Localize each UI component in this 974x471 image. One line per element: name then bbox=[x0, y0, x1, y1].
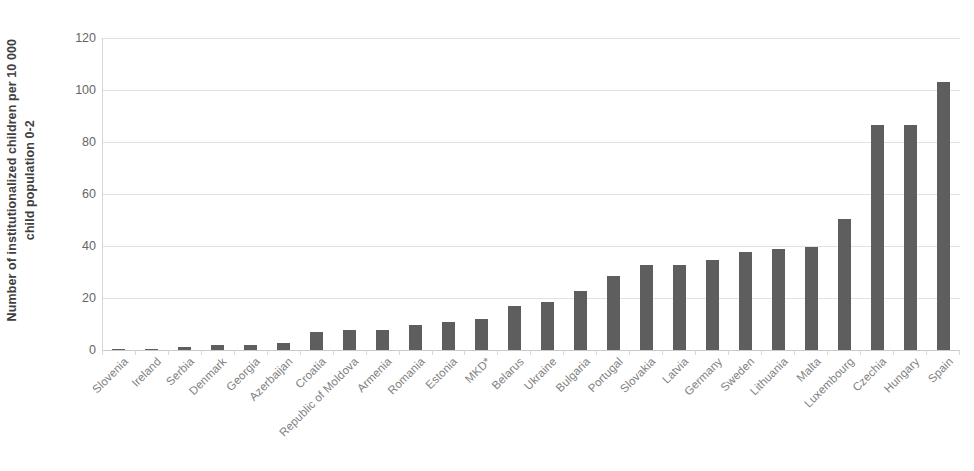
y-tick-label-80: 80 bbox=[56, 135, 96, 149]
bar-slot bbox=[399, 38, 432, 350]
bar-slot bbox=[201, 38, 234, 350]
y-tick-label-100: 100 bbox=[56, 83, 96, 97]
bar-germany[interactable] bbox=[706, 260, 719, 350]
bar-slot bbox=[663, 38, 696, 350]
bar-slot bbox=[168, 38, 201, 350]
bar-slot bbox=[861, 38, 894, 350]
x-label-slot: Romania bbox=[399, 356, 432, 471]
x-label-slot: Hungary bbox=[894, 356, 927, 471]
bar-slot bbox=[267, 38, 300, 350]
x-tick-mark bbox=[926, 350, 927, 355]
y-tick-label-40: 40 bbox=[56, 239, 96, 253]
x-tick-label-latvia: Latvia bbox=[660, 355, 691, 386]
bar-slot bbox=[927, 38, 960, 350]
bar-slot bbox=[432, 38, 465, 350]
y-axis-title-text: Number of institutionalized children per… bbox=[3, 39, 39, 322]
x-tick-mark bbox=[761, 350, 762, 355]
y-tick-label-60: 60 bbox=[56, 187, 96, 201]
bar-croatia[interactable] bbox=[310, 332, 323, 350]
x-label-slot: Czechia bbox=[861, 356, 894, 471]
bar-czechia[interactable] bbox=[871, 125, 884, 350]
x-tick-mark bbox=[662, 350, 663, 355]
bar-slot bbox=[465, 38, 498, 350]
x-tick-mark bbox=[695, 350, 696, 355]
x-tick-mark bbox=[333, 350, 334, 355]
y-axis-title-line-2: child population 0-2 bbox=[23, 120, 37, 240]
x-label-slot: Sweden bbox=[729, 356, 762, 471]
x-tick-label-mkd: MKD* bbox=[463, 355, 493, 385]
bar-hungary[interactable] bbox=[904, 125, 917, 350]
bar-lithuania[interactable] bbox=[772, 249, 785, 350]
x-label-slot: Serbia bbox=[168, 356, 201, 471]
x-label-slot: Germany bbox=[696, 356, 729, 471]
bar-estonia[interactable] bbox=[442, 322, 455, 350]
bar-republic-of-moldova[interactable] bbox=[343, 330, 356, 350]
x-label-slot: Denmark bbox=[201, 356, 234, 471]
x-tick-label-ireland: Ireland bbox=[129, 355, 163, 389]
x-label-slot: Malta bbox=[795, 356, 828, 471]
x-label-slot: Belarus bbox=[498, 356, 531, 471]
x-label-slot: Spain bbox=[927, 356, 960, 471]
bar-slot bbox=[597, 38, 630, 350]
x-tick-mark bbox=[168, 350, 169, 355]
x-label-slot: Bulgaria bbox=[564, 356, 597, 471]
x-tick-mark bbox=[959, 350, 960, 355]
bar-belarus[interactable] bbox=[508, 306, 521, 350]
x-label-slot: Republic of Moldova bbox=[333, 356, 366, 471]
bar-slot bbox=[630, 38, 663, 350]
x-label-slot: Georgia bbox=[234, 356, 267, 471]
x-axis-ticks bbox=[102, 350, 960, 355]
x-tick-mark bbox=[794, 350, 795, 355]
bar-slot bbox=[795, 38, 828, 350]
x-label-slot: Armenia bbox=[366, 356, 399, 471]
bar-slot bbox=[531, 38, 564, 350]
x-tick-mark bbox=[201, 350, 202, 355]
bar-armenia[interactable] bbox=[376, 330, 389, 350]
x-axis-tick-labels: SloveniaIrelandSerbiaDenmarkGeorgiaAzerb… bbox=[102, 356, 960, 471]
x-tick-mark bbox=[432, 350, 433, 355]
x-label-slot: Slovenia bbox=[102, 356, 135, 471]
bar-slot bbox=[894, 38, 927, 350]
x-label-slot: Ireland bbox=[135, 356, 168, 471]
y-axis-title: Number of institutionalized children per… bbox=[0, 0, 42, 360]
bar-slot bbox=[762, 38, 795, 350]
y-tick-label-20: 20 bbox=[56, 291, 96, 305]
y-tick-label-0: 0 bbox=[56, 343, 96, 357]
y-axis-title-line-1: Number of institutionalized children per… bbox=[5, 39, 19, 322]
bar-azerbaijan[interactable] bbox=[277, 343, 290, 350]
bar-slot bbox=[564, 38, 597, 350]
bar-sweden[interactable] bbox=[739, 252, 752, 350]
x-tick-label-spain: Spain bbox=[925, 355, 955, 385]
bar-bulgaria[interactable] bbox=[574, 291, 587, 350]
x-label-slot: Portugal bbox=[597, 356, 630, 471]
bar-slot bbox=[300, 38, 333, 350]
bar-slot bbox=[498, 38, 531, 350]
bar-luxembourg[interactable] bbox=[838, 219, 851, 350]
bar-slot bbox=[696, 38, 729, 350]
x-label-slot: Latvia bbox=[663, 356, 696, 471]
bar-ukraine[interactable] bbox=[541, 302, 554, 350]
x-label-slot: Luxembourg bbox=[828, 356, 861, 471]
x-tick-mark bbox=[300, 350, 301, 355]
x-tick-mark bbox=[399, 350, 400, 355]
x-label-slot: Estonia bbox=[432, 356, 465, 471]
x-tick-mark bbox=[464, 350, 465, 355]
bar-portugal[interactable] bbox=[607, 276, 620, 350]
x-tick-mark bbox=[497, 350, 498, 355]
x-label-slot: Slovakia bbox=[630, 356, 663, 471]
x-tick-mark bbox=[596, 350, 597, 355]
bar-chart-figure: Number of institutionalized children per… bbox=[0, 0, 974, 471]
bar-slot bbox=[366, 38, 399, 350]
x-tick-label-malta: Malta bbox=[794, 355, 823, 384]
x-tick-mark bbox=[267, 350, 268, 355]
bar-latvia[interactable] bbox=[673, 265, 686, 350]
bar-romania[interactable] bbox=[409, 325, 422, 350]
x-label-slot: Ukraine bbox=[531, 356, 564, 471]
bar-slot bbox=[135, 38, 168, 350]
bar-spain[interactable] bbox=[937, 82, 950, 350]
x-tick-mark bbox=[860, 350, 861, 355]
bar-malta[interactable] bbox=[805, 247, 818, 350]
bar-mkd[interactable] bbox=[475, 319, 488, 350]
x-tick-mark bbox=[827, 350, 828, 355]
bar-slovakia[interactable] bbox=[640, 265, 653, 350]
